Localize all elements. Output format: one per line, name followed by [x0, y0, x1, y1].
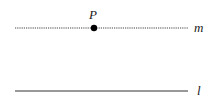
- point-p-label: P: [88, 7, 97, 22]
- diagram-canvas: P m l: [0, 0, 222, 109]
- point-p: [91, 25, 97, 31]
- line-m-label: m: [194, 20, 203, 35]
- line-l-label: l: [197, 83, 201, 98]
